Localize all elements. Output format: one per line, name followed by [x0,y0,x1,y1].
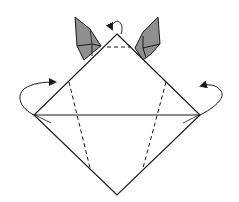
square-base-outline [34,34,200,195]
top-fold-behind-arrow-icon [112,21,122,34]
origami-diagram: origami-fold-step [0,0,239,202]
right-fold-behind-arrow-icon [200,85,222,115]
right-ear [135,17,160,60]
